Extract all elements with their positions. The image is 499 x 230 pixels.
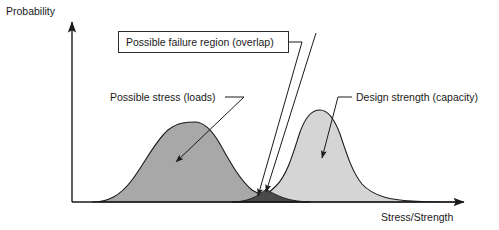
y-axis-label: Probability	[6, 6, 55, 17]
failure-region-callout-label: Possible failure region (overlap)	[126, 37, 274, 48]
strength-curve-area	[232, 110, 462, 202]
stress-curve-area	[92, 122, 292, 202]
x-axis-label: Stress/Strength	[381, 212, 453, 223]
stress-strength-figure: Probability Stress/Strength Possible fai…	[0, 0, 499, 230]
strength-curve-label: Design strength (capacity)	[356, 92, 478, 103]
stress-curve-label: Possible stress (loads)	[110, 92, 216, 103]
